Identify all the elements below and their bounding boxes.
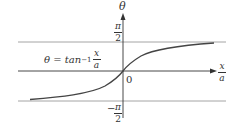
tick-pi-over-2: π2 xyxy=(114,22,122,43)
y-axis-arrow xyxy=(121,13,126,20)
theta-axis-label: θ xyxy=(119,1,126,12)
curve-equation: θ = tan −1 xa xyxy=(44,49,101,70)
x-axis-label: xa xyxy=(218,62,226,83)
origin-label: 0 xyxy=(126,75,132,85)
x-axis-arrow xyxy=(210,69,217,74)
minus-sign: − xyxy=(107,104,115,114)
